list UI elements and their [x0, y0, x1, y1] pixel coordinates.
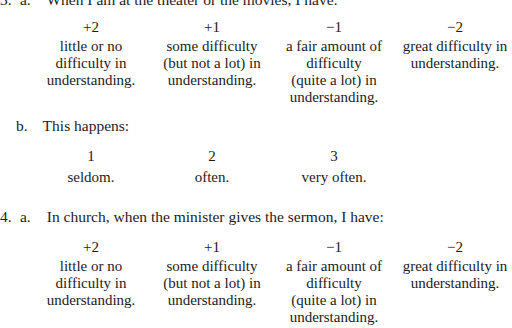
- desc-line: understanding.: [30, 292, 152, 309]
- option-1[interactable]: 1 seldom.: [30, 145, 152, 186]
- desc-line: understanding.: [30, 72, 152, 89]
- option-value: +1: [151, 236, 273, 258]
- desc-line: understanding.: [273, 89, 395, 106]
- desc-line: understanding.: [273, 309, 395, 326]
- option-description: great difficulty in understanding.: [394, 258, 512, 292]
- question-4a-prompt: 4. a. In church, when the minister gives…: [0, 208, 384, 226]
- option-label: very often.: [273, 169, 395, 186]
- option-description: little or no difficulty in understanding…: [30, 38, 152, 89]
- desc-line: (but not a lot) in: [151, 275, 273, 292]
- question-text: This happens:: [43, 117, 130, 134]
- option-plus1[interactable]: +1 some difficulty (but not a lot) in un…: [151, 236, 273, 309]
- question-3b-prompt: b. This happens:: [16, 117, 129, 135]
- desc-line: difficulty: [273, 275, 395, 292]
- desc-line: little or no: [30, 258, 152, 275]
- desc-line: understanding.: [394, 55, 512, 72]
- option-value: +1: [151, 16, 273, 38]
- desc-line: little or no: [30, 38, 152, 55]
- desc-line: understanding.: [151, 72, 273, 89]
- option-value: 1: [30, 145, 152, 167]
- option-description: some difficulty (but not a lot) in under…: [151, 38, 273, 89]
- question-number: 4.: [0, 208, 16, 226]
- option-minus2[interactable]: −2 great difficulty in understanding.: [394, 236, 512, 292]
- desc-line: understanding.: [394, 275, 512, 292]
- option-label: seldom.: [30, 169, 152, 186]
- option-minus2[interactable]: −2 great difficulty in understanding.: [394, 16, 512, 72]
- question-3a-scale: +2 little or no difficulty in understand…: [0, 16, 506, 116]
- option-3[interactable]: 3 very often.: [273, 145, 395, 186]
- desc-line: great difficulty in: [394, 258, 512, 275]
- option-description: a fair amount of difficulty (quite a lot…: [273, 38, 395, 106]
- question-number: 3.: [0, 0, 16, 9]
- option-value: −2: [394, 236, 512, 258]
- desc-line: (but not a lot) in: [151, 55, 273, 72]
- desc-line: some difficulty: [151, 258, 273, 275]
- option-description: great difficulty in understanding.: [394, 38, 512, 72]
- option-plus2[interactable]: +2 little or no difficulty in understand…: [30, 16, 152, 89]
- question-sub-label: a.: [20, 0, 43, 9]
- option-minus1[interactable]: −1 a fair amount of difficulty (quite a …: [273, 16, 395, 106]
- option-2[interactable]: 2 often.: [151, 145, 273, 186]
- question-3b-scale: 1 seldom. 2 often. 3 very often.: [0, 145, 506, 195]
- desc-line: a fair amount of: [273, 38, 395, 55]
- desc-line: difficulty: [273, 55, 395, 72]
- option-value: +2: [30, 236, 152, 258]
- question-text: In church, when the minister gives the s…: [47, 208, 384, 225]
- option-description: some difficulty (but not a lot) in under…: [151, 258, 273, 309]
- question-text: When I am at the theater or the movies, …: [46, 0, 337, 8]
- desc-line: some difficulty: [151, 38, 273, 55]
- option-minus1[interactable]: −1 a fair amount of difficulty (quite a …: [273, 236, 395, 326]
- option-value: −1: [273, 16, 395, 38]
- option-description: little or no difficulty in understanding…: [30, 258, 152, 309]
- option-description: a fair amount of difficulty (quite a lot…: [273, 258, 395, 326]
- option-plus2[interactable]: +2 little or no difficulty in understand…: [30, 236, 152, 309]
- option-plus1[interactable]: +1 some difficulty (but not a lot) in un…: [151, 16, 273, 89]
- desc-line: a fair amount of: [273, 258, 395, 275]
- option-value: −2: [394, 16, 512, 38]
- question-sub-label: a.: [20, 208, 43, 226]
- option-value: 2: [151, 145, 273, 167]
- desc-line: (quite a lot) in: [273, 292, 395, 309]
- desc-line: difficulty in: [30, 275, 152, 292]
- question-4a-scale: +2 little or no difficulty in understand…: [0, 236, 506, 328]
- desc-line: (quite a lot) in: [273, 72, 395, 89]
- desc-line: difficulty in: [30, 55, 152, 72]
- option-value: −1: [273, 236, 395, 258]
- option-value: +2: [30, 16, 152, 38]
- question-3a-prompt: 3. a. When I am at the theater or the mo…: [0, 0, 338, 9]
- option-value: 3: [273, 145, 395, 167]
- desc-line: great difficulty in: [394, 38, 512, 55]
- option-label: often.: [151, 169, 273, 186]
- desc-line: understanding.: [151, 292, 273, 309]
- question-sub-label: b.: [16, 117, 39, 135]
